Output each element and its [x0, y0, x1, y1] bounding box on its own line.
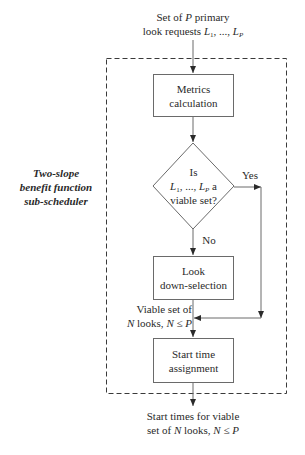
output-line-2: set of N looks, N ≤ P [123, 423, 263, 437]
start-time-assignment-box: Start time assignment [153, 338, 234, 383]
input-line-2: look requests L1, ..., LP [133, 24, 253, 38]
sub-scheduler-label: Two-slope benefit function sub-scheduler [8, 166, 104, 208]
no-label: No [200, 233, 218, 247]
downselect-line-1: Look [160, 264, 227, 278]
decision-line-2: L1, ..., LP a [153, 179, 234, 193]
metrics-line-1: Metrics [169, 82, 217, 96]
input-line-1: Set of P primary [133, 10, 253, 24]
metrics-line-2: calculation [169, 96, 217, 110]
output-label: Start times for viable set of N looks, N… [123, 409, 263, 437]
starttime-line-2: assignment [169, 361, 219, 375]
viable-set-label: Viable set of N looks, N ≤ P [110, 302, 192, 330]
decision-line-3: viable set? [153, 193, 234, 207]
side-label-line-3: sub-scheduler [8, 194, 104, 208]
viable-line-2: N looks, N ≤ P [110, 316, 192, 330]
side-label-line-2: benefit function [8, 180, 104, 194]
starttime-line-1: Start time [169, 347, 219, 361]
decision-text: Is L1, ..., LP a viable set? [153, 165, 234, 207]
metrics-calculation-box: Metrics calculation [153, 74, 234, 117]
look-down-selection-box: Look down-selection [153, 256, 234, 300]
viable-line-1: Viable set of [110, 302, 192, 316]
yes-label: Yes [238, 168, 262, 182]
side-label-line-1: Two-slope [8, 166, 104, 180]
output-line-1: Start times for viable [123, 409, 263, 423]
downselect-line-2: down-selection [160, 278, 227, 292]
decision-line-1: Is [153, 165, 234, 179]
input-label: Set of P primary look requests L1, ..., … [133, 10, 253, 38]
flowchart-canvas [0, 0, 305, 455]
